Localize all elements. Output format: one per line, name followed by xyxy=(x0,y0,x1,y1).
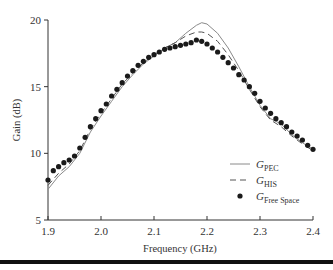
data-point xyxy=(167,45,172,50)
data-point xyxy=(210,45,215,50)
data-point xyxy=(51,168,56,173)
data-point xyxy=(273,116,278,121)
x-tick-label: 2.3 xyxy=(253,225,267,237)
data-point xyxy=(93,116,98,121)
data-point xyxy=(236,72,241,77)
x-tick-label: 2.0 xyxy=(94,225,108,237)
data-point xyxy=(77,145,82,150)
data-point xyxy=(220,55,225,60)
x-axis-label: Frequency (GHz) xyxy=(143,243,217,255)
data-point xyxy=(56,164,61,169)
data-point xyxy=(257,99,262,104)
data-point xyxy=(173,44,178,49)
data-point xyxy=(67,157,72,162)
data-point xyxy=(61,160,66,165)
data-point xyxy=(151,52,156,57)
data-point xyxy=(114,87,119,92)
legend-fs-marker xyxy=(237,193,242,198)
data-point xyxy=(231,65,236,70)
data-point xyxy=(183,41,188,46)
data-point xyxy=(204,41,209,46)
data-point xyxy=(104,101,109,106)
data-point xyxy=(178,43,183,48)
x-tick-label: 2.2 xyxy=(200,225,214,237)
x-tick-label: 2.4 xyxy=(306,225,320,237)
legend: GPEC GHIS GFree Space xyxy=(230,158,300,205)
data-point xyxy=(141,59,146,64)
data-point xyxy=(130,68,135,73)
data-point xyxy=(109,93,114,98)
data-point xyxy=(247,84,252,89)
data-point xyxy=(120,80,125,85)
y-tick-label: 15 xyxy=(30,81,42,93)
data-point xyxy=(72,153,77,158)
data-point xyxy=(157,49,162,54)
bottom-rule xyxy=(0,260,333,264)
data-point xyxy=(125,73,130,78)
data-point xyxy=(83,135,88,140)
data-point xyxy=(279,120,284,125)
gain-chart: 51015201.92.02.12.22.32.4 Gain (dB) Freq… xyxy=(0,0,333,270)
data-point xyxy=(189,40,194,45)
data-point xyxy=(310,147,315,152)
legend-pec-label: GPEC xyxy=(256,158,279,173)
data-point xyxy=(226,60,231,65)
legend-fs-label: GFree Space xyxy=(256,190,300,205)
data-point xyxy=(268,111,273,116)
series-line-1 xyxy=(48,32,313,185)
data-point xyxy=(305,143,310,148)
y-tick-label: 10 xyxy=(30,147,42,159)
data-point xyxy=(88,124,93,129)
x-tick-label: 2.1 xyxy=(147,225,161,237)
data-point xyxy=(98,108,103,113)
data-point xyxy=(194,37,199,42)
data-point xyxy=(252,91,257,96)
data-point xyxy=(146,55,151,60)
data-point xyxy=(295,133,300,138)
y-tick-label: 20 xyxy=(30,14,42,26)
data-point xyxy=(199,39,204,44)
legend-his-label: GHIS xyxy=(256,174,277,189)
data-point xyxy=(242,77,247,82)
data-point xyxy=(162,47,167,52)
data-point xyxy=(289,129,294,134)
data-point xyxy=(284,124,289,129)
x-tick-label: 1.9 xyxy=(41,225,55,237)
data-point xyxy=(300,137,305,142)
y-axis-label: Gain (dB) xyxy=(11,98,23,141)
data-point xyxy=(215,49,220,54)
data-point xyxy=(45,177,50,182)
data-point xyxy=(263,105,268,110)
data-point xyxy=(136,63,141,68)
